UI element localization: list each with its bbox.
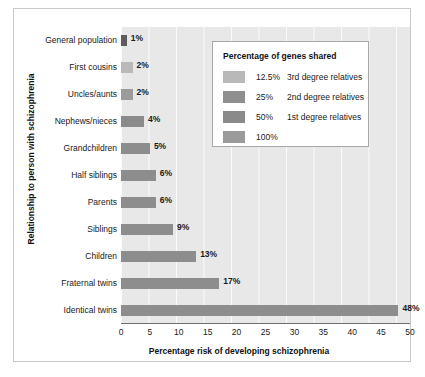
legend-swatch — [223, 71, 245, 83]
bar-row: 13% — [121, 243, 410, 270]
bar-row: 6% — [121, 189, 410, 216]
bar — [121, 35, 127, 46]
x-axis-ticks: 05101520253035404550 — [121, 324, 410, 340]
figure-frame: Relationship to person with schizophreni… — [13, 8, 411, 362]
legend-description: 1st degree relatives — [287, 111, 361, 123]
bar-value-label: 6% — [160, 195, 172, 206]
bar-row: 6% — [121, 162, 410, 189]
category-label: First cousins — [17, 62, 117, 73]
bar — [121, 224, 173, 235]
category-label: Children — [17, 251, 117, 262]
bar — [121, 89, 133, 100]
x-tick-label: 0 — [119, 327, 124, 337]
bar-row: 48% — [121, 297, 410, 324]
legend-item: 12.5%3rd degree relatives — [223, 68, 364, 88]
category-label: Uncles/aunts — [17, 89, 117, 100]
legend-percent: 25% — [256, 91, 273, 103]
category-label: Siblings — [17, 224, 117, 235]
bar-value-label: 4% — [148, 114, 160, 125]
x-tick-label: 10 — [174, 327, 183, 337]
bar-value-label: 6% — [160, 168, 172, 179]
bar-value-label: 13% — [200, 249, 217, 260]
bar — [121, 170, 156, 181]
legend-description: 3rd degree relatives — [287, 71, 362, 83]
x-axis-title: Percentage risk of developing schizophre… — [74, 346, 404, 356]
legend-swatch — [223, 111, 245, 123]
x-tick-label: 50 — [405, 327, 414, 337]
bar-value-label: 48% — [402, 303, 419, 314]
bar-row: 9% — [121, 216, 410, 243]
x-tick-label: 35 — [319, 327, 328, 337]
legend-percent: 50% — [256, 111, 273, 123]
x-tick-label: 45 — [376, 327, 385, 337]
category-label: General population — [17, 35, 117, 46]
x-tick-label: 20 — [232, 327, 241, 337]
legend-title: Percentage of genes shared — [223, 51, 336, 61]
y-axis-category-labels: General populationFirst cousinsUncles/au… — [14, 27, 117, 324]
bar — [121, 197, 156, 208]
x-tick-label: 30 — [290, 327, 299, 337]
legend-item: 25%2nd degree relatives — [223, 88, 364, 108]
legend-description: 2nd degree relatives — [287, 91, 364, 103]
category-label: Half siblings — [17, 170, 117, 181]
legend: Percentage of genes shared 12.5%3rd degr… — [212, 41, 369, 147]
chart-screenshot: Relationship to person with schizophreni… — [0, 0, 425, 377]
x-tick-label: 5 — [148, 327, 153, 337]
category-label: Parents — [17, 197, 117, 208]
bar-value-label: 9% — [177, 222, 189, 233]
bar — [121, 116, 144, 127]
category-label: Nephews/nieces — [17, 116, 117, 127]
category-label: Identical twins — [17, 305, 117, 316]
legend-percent: 100% — [256, 131, 278, 143]
category-label: Grandchildren — [17, 143, 117, 154]
legend-percent: 12.5% — [256, 71, 280, 83]
x-tick-label: 15 — [203, 327, 212, 337]
legend-items: 12.5%3rd degree relatives25%2nd degree r… — [223, 68, 364, 148]
bar-value-label: 2% — [137, 60, 149, 71]
x-tick-label: 25 — [261, 327, 270, 337]
bar-value-label: 1% — [131, 33, 143, 44]
category-label: Fraternal twins — [17, 278, 117, 289]
bar-row: 17% — [121, 270, 410, 297]
bar-value-label: 17% — [223, 276, 240, 287]
legend-item: 100% — [223, 128, 364, 148]
bar — [121, 143, 150, 154]
bar — [121, 251, 196, 262]
bar-value-label: 2% — [137, 87, 149, 98]
bar-value-label: 5% — [154, 141, 166, 152]
x-tick-label: 40 — [347, 327, 356, 337]
legend-item: 50%1st degree relatives — [223, 108, 364, 128]
legend-swatch — [223, 91, 245, 103]
bar — [121, 278, 219, 289]
bar — [121, 62, 133, 73]
legend-swatch — [223, 131, 245, 143]
bar — [121, 305, 398, 316]
top-caption — [18, 0, 408, 7]
